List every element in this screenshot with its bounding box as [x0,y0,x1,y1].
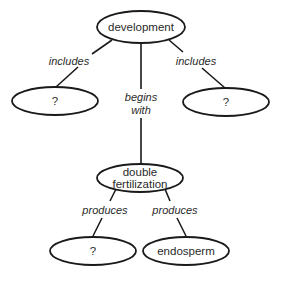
edge-label-produces-left: produces [81,204,128,216]
node-produces-left-label: ? [90,245,96,257]
edge-label-with: with [131,104,151,116]
node-includes-right-unknown: ? [183,88,269,116]
edge-development-includes-left: includes [49,40,112,87]
edge-label-includes-right: includes [176,55,217,67]
concept-map: includes includes begins with produces p… [0,0,284,283]
edge-double-produces-left: produces [81,189,128,236]
edge-label-produces-right: produces [151,204,198,216]
node-fertilization-label: fertilization [113,178,168,190]
node-double-label: double [123,166,158,178]
node-includes-left-unknown: ? [12,87,98,115]
edge-development-begins-with: begins with [125,44,158,164]
node-includes-right-label: ? [223,96,229,108]
node-includes-left-label: ? [52,95,58,107]
edge-label-includes-left: includes [49,55,90,67]
node-development: development [97,11,185,43]
node-double-fertilization: double fertilization [97,164,183,192]
node-endosperm-label: endosperm [157,245,215,257]
edge-double-produces-endosperm: produces [151,189,198,236]
node-development-label: development [108,21,175,33]
node-produces-left-unknown: ? [50,237,136,265]
node-endosperm: endosperm [143,237,229,265]
edge-label-begins: begins [125,91,158,103]
edge-development-includes-right: includes [169,40,225,88]
